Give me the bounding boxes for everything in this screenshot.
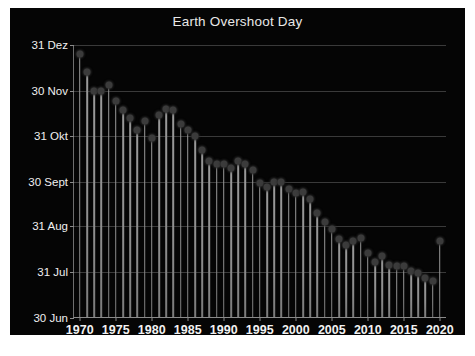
plot-area: 31 Dez30 Nov31 Okt30 Sept31 Aug31 Jul30 …: [73, 45, 446, 318]
x-axis-tick-label: 1980: [138, 323, 166, 335]
stem-bar: [79, 53, 81, 317]
y-axis-tick-label: 31 Okt: [34, 130, 68, 142]
stem-bar: [417, 273, 419, 318]
stem-bar: [129, 117, 131, 317]
data-point-marker: [141, 117, 148, 124]
screenshot-root: Earth Overshoot Day 31 Dez30 Nov31 Okt30…: [0, 0, 475, 356]
data-point-marker: [191, 132, 198, 139]
data-point-marker: [127, 114, 134, 121]
stem-bar: [331, 228, 333, 317]
stem-bar: [374, 261, 376, 317]
stem-bar: [425, 277, 427, 317]
stem-bar: [403, 265, 405, 317]
data-point-marker: [213, 160, 220, 167]
stem-bar: [381, 255, 383, 317]
data-point-marker: [292, 190, 299, 197]
x-axis-tick-label: 1995: [246, 323, 274, 335]
data-point-marker: [163, 105, 170, 112]
data-point-marker: [91, 87, 98, 94]
y-axis-tick-mark: [70, 136, 74, 137]
data-point-marker: [227, 165, 234, 172]
stem-bar: [194, 135, 196, 317]
x-axis-tick-label: 1975: [102, 323, 130, 335]
chart-figure: Earth Overshoot Day 31 Dez30 Nov31 Okt30…: [10, 8, 465, 335]
stem-bar: [432, 280, 434, 317]
x-axis-tick-mark: [187, 317, 188, 321]
x-axis-tick-mark: [439, 317, 440, 321]
stem-bar: [317, 212, 319, 317]
x-axis-tick-mark: [151, 317, 152, 321]
stem-bar: [237, 160, 239, 317]
stem-bar: [137, 129, 139, 317]
stem-bar: [281, 181, 283, 318]
x-axis-tick-label: 1970: [66, 323, 94, 335]
data-point-marker: [271, 178, 278, 185]
stem-bar: [309, 198, 311, 317]
data-point-marker: [220, 160, 227, 167]
data-point-marker: [400, 263, 407, 270]
data-point-marker: [278, 178, 285, 185]
y-axis-tick-mark: [70, 182, 74, 183]
stem-bar: [158, 114, 160, 317]
data-point-marker: [436, 237, 443, 244]
x-axis-tick-mark: [115, 317, 116, 321]
stem-bar: [439, 240, 441, 317]
stem-bar: [101, 90, 103, 317]
stem-bar: [396, 265, 398, 317]
stem-bar: [216, 163, 218, 317]
x-axis-tick-mark: [223, 317, 224, 321]
data-point-marker: [263, 184, 270, 191]
data-point-marker: [350, 237, 357, 244]
data-point-marker: [76, 50, 83, 57]
x-axis-tick-label: 2000: [282, 323, 310, 335]
gridline: [74, 45, 446, 46]
data-point-marker: [249, 166, 256, 173]
y-axis-tick-label: 31 Dez: [32, 39, 68, 51]
y-axis-tick-label: 31 Aug: [32, 220, 68, 232]
data-point-marker: [364, 249, 371, 256]
y-axis-tick-label: 30 Nov: [32, 85, 68, 97]
chart-title: Earth Overshoot Day: [10, 14, 465, 29]
data-point-marker: [184, 126, 191, 133]
x-axis-tick-label: 2010: [354, 323, 382, 335]
y-axis-tick-mark: [70, 91, 74, 92]
data-point-marker: [379, 252, 386, 259]
stem-bar: [324, 221, 326, 317]
stem-bar: [201, 149, 203, 317]
gridline: [74, 91, 446, 92]
data-point-marker: [83, 68, 90, 75]
stem-bar: [115, 100, 117, 317]
x-axis-tick-label: 2015: [390, 323, 418, 335]
y-axis-tick-mark: [70, 226, 74, 227]
stem-bar: [266, 186, 268, 317]
data-point-marker: [199, 147, 206, 154]
stem-bar: [338, 238, 340, 317]
stem-bar: [367, 252, 369, 317]
data-point-marker: [235, 157, 242, 164]
data-point-marker: [134, 126, 141, 133]
data-point-marker: [407, 267, 414, 274]
data-point-marker: [393, 263, 400, 270]
stem-bar: [209, 160, 211, 317]
stem-bar: [302, 191, 304, 317]
stem-bar: [173, 109, 175, 317]
data-point-marker: [429, 277, 436, 284]
stem-bar: [360, 237, 362, 317]
data-point-marker: [321, 218, 328, 225]
stem-bar: [353, 240, 355, 317]
stem-bar: [180, 123, 182, 317]
stem-bar: [288, 188, 290, 317]
data-point-marker: [386, 261, 393, 268]
y-axis-tick-mark: [70, 45, 74, 46]
data-point-marker: [371, 258, 378, 265]
x-axis-tick-label: 1985: [174, 323, 202, 335]
data-point-marker: [415, 270, 422, 277]
data-point-marker: [256, 179, 263, 186]
data-point-marker: [148, 135, 155, 142]
data-point-marker: [357, 234, 364, 241]
stem-bar: [93, 90, 95, 317]
data-point-marker: [299, 188, 306, 195]
x-axis-tick-mark: [79, 317, 80, 321]
stem-bar: [230, 167, 232, 317]
stem-bar: [151, 137, 153, 317]
